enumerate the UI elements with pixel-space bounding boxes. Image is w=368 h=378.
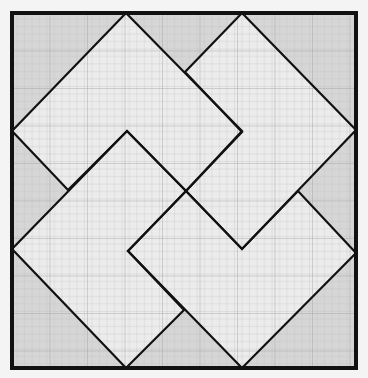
pattern-diagram xyxy=(0,0,368,378)
